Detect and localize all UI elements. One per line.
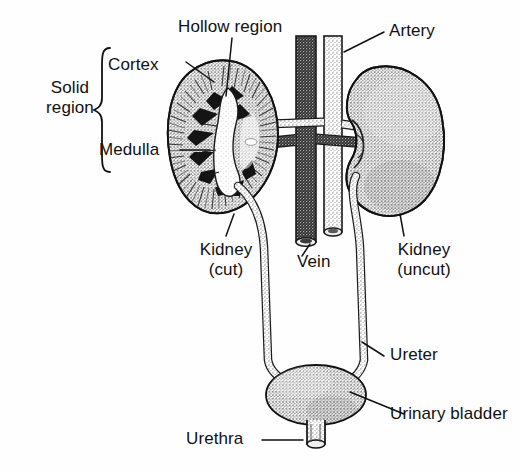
- leader-kidney-cut: [226, 214, 234, 236]
- label-urethra: Urethra: [186, 429, 243, 449]
- kidney-uncut: [346, 66, 444, 216]
- leader-kidney-uncut: [400, 214, 404, 236]
- label-solid-region: Solid region: [34, 78, 106, 118]
- kidney-cut: [167, 60, 278, 213]
- anatomy-illustration: [0, 0, 520, 474]
- urinary-system-figure: Solid region Cortex Medulla Hollow regio…: [0, 0, 520, 474]
- label-kidney-cut: Kidney (cut): [176, 240, 276, 280]
- label-ureter: Ureter: [390, 345, 438, 365]
- label-hollow-region: Hollow region: [178, 17, 282, 37]
- label-urinary-bladder: Urinary bladder: [390, 404, 508, 424]
- label-kidney-uncut: Kidney (uncut): [372, 240, 476, 280]
- label-cortex: Cortex: [108, 55, 159, 75]
- leader-artery: [344, 32, 384, 52]
- label-artery: Artery: [389, 21, 435, 41]
- urinary-bladder: [266, 365, 366, 448]
- label-medulla: Medulla: [99, 140, 159, 160]
- urethra: [307, 420, 325, 448]
- vein-vessel: [296, 36, 316, 246]
- label-vein: Vein: [297, 252, 331, 272]
